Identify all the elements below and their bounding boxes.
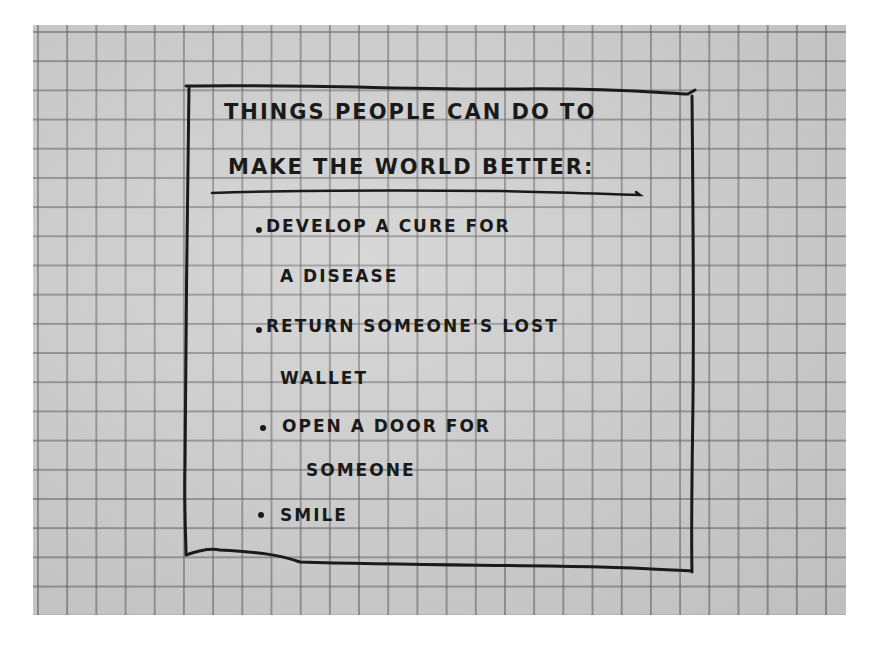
bullet-3 [260,425,266,431]
bullet-1 [256,227,262,233]
item-4-line-1: Smile [280,505,348,525]
item-3-line-1: Open a door for [282,416,491,436]
item-1-line-2: a disease [280,266,398,286]
item-2-line-2: wallet [280,368,368,388]
note-title-line-2: make the world better: [228,155,594,179]
note-title-line-1: Things people can do to [224,100,596,124]
bullet-2 [256,327,262,333]
item-2-line-1: Return someone's lost [266,316,559,336]
bullet-4 [258,512,264,518]
item-3-line-2: someone [306,460,416,480]
item-1-line-1: Develop a cure for [266,216,511,236]
